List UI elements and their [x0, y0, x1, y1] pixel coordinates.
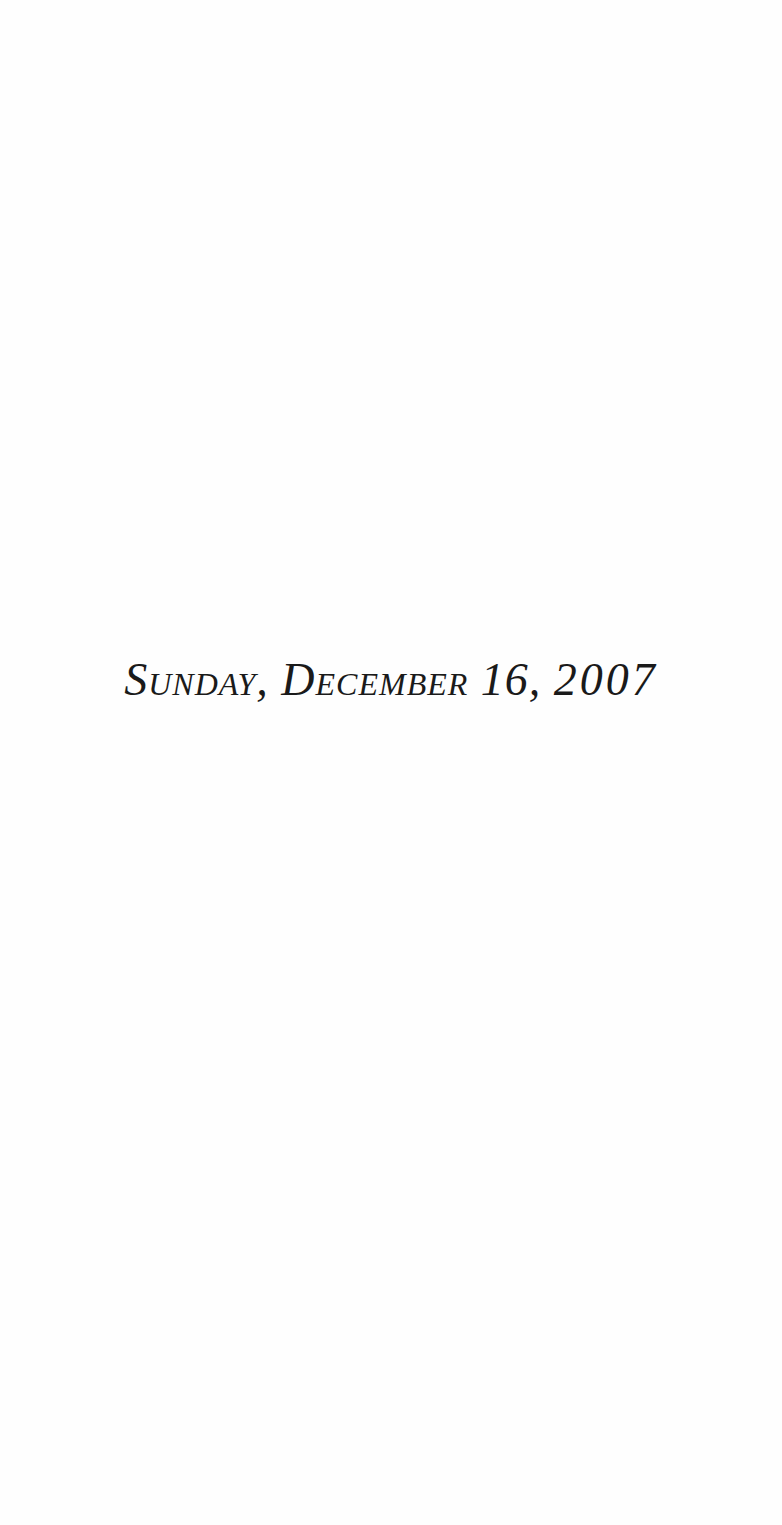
weekday-text: Sunday, — [124, 654, 269, 705]
year-text: 2007 — [554, 654, 658, 705]
date-heading: Sunday, December 16, 2007 — [0, 650, 782, 710]
document-page: Sunday, December 16, 2007 — [0, 0, 782, 1525]
month-day-text: December 16, — [281, 654, 541, 705]
